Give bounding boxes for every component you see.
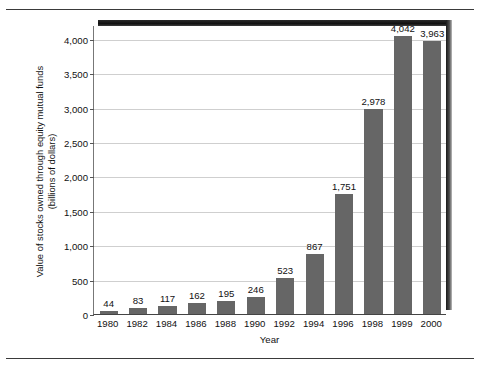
y-tick-mark: [90, 177, 94, 178]
x-tick-label-1994: 1994: [303, 318, 324, 329]
y-tick-label: 3,000: [64, 103, 88, 114]
y-tick-mark: [90, 315, 94, 316]
bar-value-label: 867: [307, 241, 323, 252]
bar-value-label: 246: [248, 284, 264, 295]
bar-value-label: 4,042: [391, 23, 415, 34]
bar-value-label: 523: [277, 265, 293, 276]
y-tick-label: 500: [72, 275, 88, 286]
bar-1994[interactable]: 867: [306, 254, 324, 314]
bar-1986[interactable]: 162: [188, 303, 206, 314]
y-tick-mark: [90, 246, 94, 247]
y-tick-mark: [90, 109, 94, 110]
y-axis-title-line-2: (billions of dollars): [45, 22, 57, 322]
bar-1988[interactable]: 195: [217, 301, 235, 314]
y-tick-mark: [90, 281, 94, 282]
bar-value-label: 162: [189, 290, 205, 301]
x-tick-label-1999: 1999: [391, 318, 412, 329]
y-tick-label: 0: [83, 310, 88, 321]
x-tick-label-2000: 2000: [421, 318, 442, 329]
y-tick-label: 2,000: [64, 172, 88, 183]
bar-value-label: 2,978: [361, 96, 385, 107]
x-tick-label-1986: 1986: [185, 318, 206, 329]
y-tick-mark: [90, 143, 94, 144]
plot-area: 05001,0001,5002,0002,5003,0003,5004,0004…: [93, 26, 446, 315]
bar-value-label: 117: [160, 293, 175, 304]
bar-2000[interactable]: 3,963: [423, 41, 441, 314]
x-tick-label-1980: 1980: [97, 318, 118, 329]
x-tick-label-1992: 1992: [274, 318, 295, 329]
top-rule: [6, 9, 474, 10]
y-tick-label: 1,000: [64, 241, 88, 252]
x-tick-label-1982: 1982: [126, 318, 147, 329]
y-tick-label: 3,500: [64, 69, 88, 80]
bar-value-label: 1,751: [332, 181, 356, 192]
y-tick-mark: [90, 40, 94, 41]
x-tick-label-1988: 1988: [215, 318, 236, 329]
y-tick-label: 4,000: [64, 34, 88, 45]
y-tick-label: 2,500: [64, 137, 88, 148]
bar-1980[interactable]: 44: [100, 311, 118, 314]
x-tick-label-1984: 1984: [156, 318, 177, 329]
y-tick-mark: [90, 74, 94, 75]
bar-value-label: 3,963: [420, 28, 444, 39]
bar-1996[interactable]: 1,751: [335, 194, 353, 314]
y-axis-title-line-1: Value of stocks owned through equity mut…: [34, 22, 46, 322]
y-axis-title: Value of stocks owned through equity mut…: [34, 22, 57, 322]
bottom-rule: [6, 358, 474, 359]
chart-figure: Value of stocks owned through equity mut…: [0, 0, 480, 370]
y-tick-mark: [90, 212, 94, 213]
bar-1982[interactable]: 83: [129, 308, 147, 314]
bar-1999[interactable]: 4,042: [394, 36, 412, 314]
x-axis-title: Year: [93, 334, 446, 345]
plot-right-edge: [446, 20, 452, 310]
x-tick-label-1998: 1998: [362, 318, 383, 329]
y-tick-label: 1,500: [64, 206, 88, 217]
bar-1998[interactable]: 2,978: [364, 109, 382, 314]
bar-value-label: 83: [133, 295, 144, 306]
plot-frame: 05001,0001,5002,0002,5003,0003,5004,0004…: [93, 20, 452, 316]
bar-1984[interactable]: 117: [158, 306, 176, 314]
bar-1992[interactable]: 523: [276, 278, 294, 314]
x-tick-label-1990: 1990: [244, 318, 265, 329]
bar-1990[interactable]: 246: [247, 297, 265, 314]
bar-value-label: 44: [103, 298, 114, 309]
x-tick-label-1996: 1996: [332, 318, 353, 329]
bar-value-label: 195: [218, 288, 234, 299]
